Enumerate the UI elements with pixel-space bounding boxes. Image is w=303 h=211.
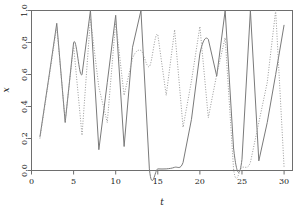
y-axis-title: x	[1, 87, 11, 92]
chart-figure: 0.00.20.40.60.81.0 051015202530 t x	[0, 0, 303, 211]
y-tick-label: 0.2	[20, 132, 29, 145]
line-chart: 0.00.20.40.60.81.0 051015202530 t x	[0, 0, 303, 211]
y-tick-label: 1.0	[20, 4, 29, 17]
x-axis-title: t	[160, 197, 164, 207]
x-tick-label: 20	[195, 177, 205, 186]
y-tick-label: 0.0	[20, 164, 29, 177]
x-tick-label: 10	[111, 177, 121, 186]
x-tick-label: 5	[71, 177, 76, 186]
y-tick-label: 0.8	[20, 36, 29, 49]
y-tick-label: 0.4	[20, 100, 29, 113]
y-tick-label: 0.6	[20, 68, 29, 81]
x-tick-label: 0	[29, 177, 34, 186]
x-tick-label: 30	[279, 177, 289, 186]
x-tick-label: 25	[237, 177, 247, 186]
